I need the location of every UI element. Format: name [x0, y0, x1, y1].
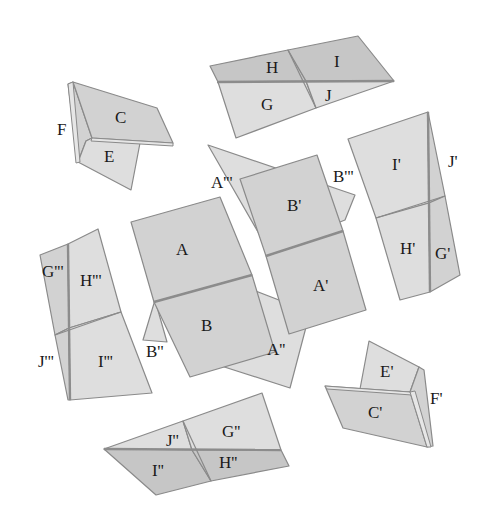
label-h-triple-prime: H''' [80, 271, 101, 290]
label-j: J [325, 86, 332, 105]
diagram-canvas: C E F H I G J I' J' H' G' [0, 0, 486, 527]
label-h-prime: H' [400, 239, 415, 258]
label-i-prime: I' [392, 155, 401, 174]
piece-prime-cef: E' C' F' [325, 341, 443, 447]
piece-double-jgih: J'' G'' I'' H'' [104, 393, 289, 495]
piece-cef: C E F [57, 82, 173, 190]
label-a: A [176, 240, 189, 259]
face-i [288, 36, 394, 81]
label-e-prime: E' [380, 362, 393, 381]
label-h: H [266, 58, 278, 77]
face-i-prime [348, 112, 429, 218]
label-b-prime: B' [287, 196, 301, 215]
face-j-triple [55, 328, 70, 400]
label-g-prime: G' [435, 244, 450, 263]
face-g-triple [40, 244, 69, 335]
label-i-double-prime: I'' [152, 461, 164, 480]
label-h-double-prime: H'' [219, 453, 237, 472]
label-b: B [201, 316, 212, 335]
label-f: F [57, 120, 66, 139]
label-a-double-prime: A'' [267, 340, 285, 359]
label-c-prime: C' [368, 403, 382, 422]
piece-center: A B A' B' A'' B'' A''' B''' [131, 145, 366, 388]
label-a-triple-prime: A''' [211, 173, 232, 192]
piece-triple-ghji: G''' H''' J''' I''' [38, 229, 152, 400]
label-e: E [104, 147, 114, 166]
piece-prime-ijhg: I' J' H' G' [348, 112, 460, 300]
label-j-double-prime: J'' [166, 431, 179, 450]
face-j [306, 81, 394, 108]
label-g: G [261, 95, 273, 114]
label-i: I [334, 52, 340, 71]
label-a-prime: A' [313, 276, 328, 295]
label-i-triple-prime: I''' [98, 352, 113, 371]
face-j-double [104, 421, 192, 450]
label-g-double-prime: G'' [222, 422, 240, 441]
face-j-prime [428, 112, 445, 203]
label-b-double-prime: B'' [146, 342, 163, 361]
label-g-triple-prime: G''' [42, 262, 63, 281]
label-j-prime: J' [448, 152, 458, 171]
label-b-triple-prime: B''' [333, 167, 354, 186]
piece-hijg: H I G J [210, 36, 394, 138]
label-j-triple-prime: J''' [38, 352, 54, 371]
label-f-prime: F' [430, 389, 443, 408]
label-c: C [115, 108, 126, 127]
